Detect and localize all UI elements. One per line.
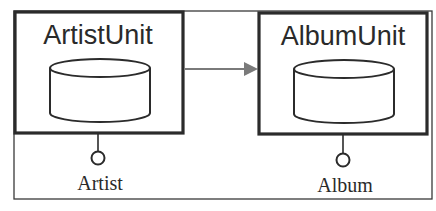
artist-unit-title: ArtistUnit — [43, 20, 153, 50]
arrowhead-icon — [244, 62, 258, 76]
database-icon — [50, 59, 150, 122]
database-icon — [294, 60, 394, 123]
artist-interface-lollipop-icon — [92, 152, 105, 165]
artist-unit: ArtistUnit Artist — [15, 12, 183, 194]
album-interface-lollipop-icon — [337, 154, 350, 167]
dependency-arrow — [185, 62, 258, 76]
album-unit: AlbumUnit Album — [259, 13, 427, 196]
album-interface-label: Album — [317, 174, 373, 196]
album-unit-title: AlbumUnit — [281, 21, 406, 51]
artist-interface-label: Artist — [77, 172, 123, 194]
component-diagram: ArtistUnit Artist AlbumUnit Album — [0, 0, 436, 211]
